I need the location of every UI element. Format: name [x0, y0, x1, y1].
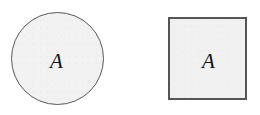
circle-shape: A	[11, 12, 104, 105]
square-shape: A	[168, 17, 247, 100]
geometric-shapes-figure: A A	[0, 0, 260, 115]
square-shape-label: A	[171, 51, 246, 72]
circle-shape-label: A	[11, 51, 102, 72]
